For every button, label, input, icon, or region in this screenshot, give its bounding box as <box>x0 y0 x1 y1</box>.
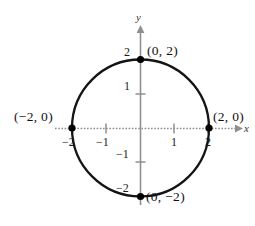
point-label-right: (2, 0) <box>213 110 244 124</box>
y-tick-label-1: 1 <box>124 80 130 92</box>
y-tick-label-2: 2 <box>124 46 130 58</box>
y-axis-label: y <box>136 12 141 23</box>
x-axis-label: x <box>244 123 249 134</box>
y-axis <box>136 25 146 205</box>
point-marker-top <box>137 56 144 63</box>
point-label-top: (0, 2) <box>147 44 178 58</box>
point-marker-bottom <box>137 193 144 200</box>
x-axis <box>55 124 243 134</box>
figure-canvas: y x −2 −1 1 2 2 1 −1 −2 (0, 2) (2, 0) (0… <box>0 0 255 226</box>
point-marker-right <box>205 124 212 131</box>
point-marker-left <box>68 124 75 131</box>
x-axis-arrowhead <box>235 125 243 133</box>
y-tick-label--1: −1 <box>116 148 129 160</box>
point-label-left: (−2, 0) <box>14 110 53 124</box>
point-label-bottom: (0, −2) <box>146 190 185 204</box>
x-tick-label-1: 1 <box>171 136 177 148</box>
x-tick-label--2: −2 <box>62 136 75 148</box>
y-tick-label--2: −2 <box>116 182 129 194</box>
x-tick-label-2: 2 <box>205 136 211 148</box>
x-tick-label--1: −1 <box>96 136 109 148</box>
y-axis-arrowhead <box>137 25 145 33</box>
